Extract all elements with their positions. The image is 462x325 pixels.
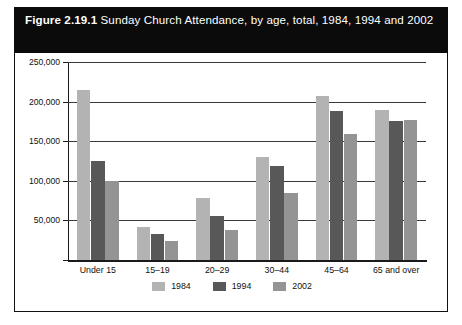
- legend-item-2002: 2002: [273, 281, 312, 291]
- y-axis-tick: [63, 62, 68, 63]
- legend-swatch-2002: [273, 282, 286, 291]
- gridline: [68, 181, 426, 182]
- bar-1984-20-29: [196, 198, 210, 260]
- bar-group: [137, 62, 179, 260]
- x-axis-category-label: 45–64: [324, 265, 348, 275]
- bar-1984-30-44: [256, 157, 270, 260]
- chart-panel: 50,000100,000150,000200,000250,000 Under…: [14, 53, 448, 312]
- x-axis-category-label: 65 and over: [373, 265, 419, 275]
- bar-2002-30-44: [284, 193, 298, 260]
- y-axis-tick: [63, 102, 68, 103]
- bar-2002-20-29: [225, 230, 239, 260]
- bar-1984-65-and-over: [375, 110, 389, 260]
- bar-group: [77, 62, 119, 260]
- x-axis-category-label: 30–44: [265, 265, 289, 275]
- bar-2002-under-15: [105, 181, 119, 260]
- gridline: [68, 102, 426, 103]
- bar-group: [375, 62, 417, 260]
- bar-group: [196, 62, 238, 260]
- bar-group: [256, 62, 298, 260]
- gridline: [68, 220, 426, 221]
- y-axis-tick: [63, 220, 68, 221]
- gridline: [68, 62, 426, 63]
- x-axis-category-label: 20–29: [205, 265, 229, 275]
- figure-title-banner: Figure 2.19.1 Sunday Church Attendance, …: [14, 7, 448, 53]
- x-axis-line: [68, 260, 427, 262]
- figure-title-line-1: Figure 2.19.1 Sunday Church Attendance, …: [25, 12, 438, 27]
- y-axis-tick-label: 250,000: [29, 57, 60, 67]
- legend-label-1984: 1984: [171, 281, 191, 291]
- bar-2002-65-and-over: [404, 120, 418, 260]
- bar-2002-15-19: [165, 241, 179, 260]
- figure-number: Figure 2.19.1: [25, 13, 97, 26]
- bar-1994-30-44: [270, 166, 284, 260]
- legend-swatch-1984: [152, 282, 165, 291]
- legend-item-1994: 1994: [213, 281, 252, 291]
- plot-area: 50,000100,000150,000200,000250,000 Under…: [68, 62, 426, 260]
- bar-1984-45-64: [316, 96, 330, 260]
- bar-1994-15-19: [151, 234, 165, 260]
- y-axis-tick: [63, 141, 68, 142]
- bar-1994-65-and-over: [389, 121, 403, 260]
- bar-1994-under-15: [91, 161, 105, 260]
- figure-title-text: Sunday Church Attendance, by age, total,…: [97, 13, 433, 26]
- y-axis-tick-label: 50,000: [34, 215, 60, 225]
- y-axis-tick-label: 100,000: [29, 176, 60, 186]
- legend-swatch-1994: [213, 282, 226, 291]
- bar-1994-45-64: [330, 111, 344, 260]
- plot-wrapper: 50,000100,000150,000200,000250,000 Under…: [15, 53, 449, 312]
- bar-1984-15-19: [137, 227, 151, 260]
- legend-label-1994: 1994: [232, 281, 252, 291]
- y-axis-tick-label: 150,000: [29, 136, 60, 146]
- bar-1994-20-29: [210, 216, 224, 260]
- figure-container: Figure 2.19.1 Sunday Church Attendance, …: [0, 0, 462, 325]
- gridline: [68, 141, 426, 142]
- y-axis-tick: [63, 260, 68, 261]
- x-axis-category-label: 15–19: [145, 265, 169, 275]
- x-axis-category-label: Under 15: [80, 265, 116, 275]
- y-axis-tick: [63, 181, 68, 182]
- bar-1984-under-15: [77, 90, 91, 260]
- chart-legend: 198419942002: [15, 281, 449, 291]
- bar-group: [316, 62, 358, 260]
- legend-label-2002: 2002: [292, 281, 312, 291]
- bar-2002-45-64: [344, 134, 358, 260]
- y-axis-tick-label: 200,000: [29, 97, 60, 107]
- legend-item-1984: 1984: [152, 281, 191, 291]
